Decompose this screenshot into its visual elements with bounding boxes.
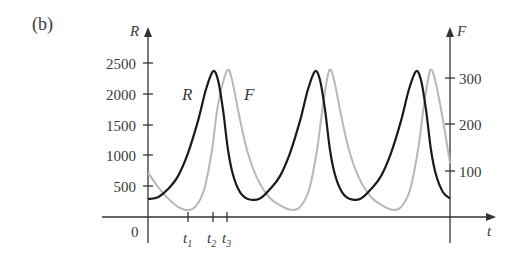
left-tick-label: 1500 bbox=[76, 118, 136, 135]
origin-label: 0 bbox=[131, 225, 139, 240]
r-curve-label: R bbox=[182, 86, 192, 103]
f-curve-label: F bbox=[244, 86, 254, 103]
t1-label: t1 bbox=[183, 231, 192, 249]
r-series-line bbox=[148, 71, 450, 200]
right-axis-label: F bbox=[457, 24, 466, 39]
left-y-axis-arrow-icon bbox=[144, 27, 152, 37]
left-tick-label: 1000 bbox=[76, 148, 136, 165]
right-y-axis-arrow-icon bbox=[446, 27, 454, 37]
right-tick-label: 300 bbox=[459, 71, 482, 88]
x-axis-arrow-icon bbox=[486, 213, 496, 221]
x-axis-label: t bbox=[487, 224, 491, 239]
left-tick-label: 2500 bbox=[76, 56, 136, 73]
t3-label: t3 bbox=[222, 231, 231, 249]
left-tick-label: 2000 bbox=[76, 87, 136, 104]
right-tick-label: 100 bbox=[459, 164, 482, 181]
panel-label: (b) bbox=[32, 14, 53, 35]
left-axis-label: R bbox=[130, 24, 139, 39]
right-tick-label: 200 bbox=[459, 117, 482, 134]
left-tick-label: 500 bbox=[76, 179, 136, 196]
t2-label: t2 bbox=[207, 231, 216, 249]
